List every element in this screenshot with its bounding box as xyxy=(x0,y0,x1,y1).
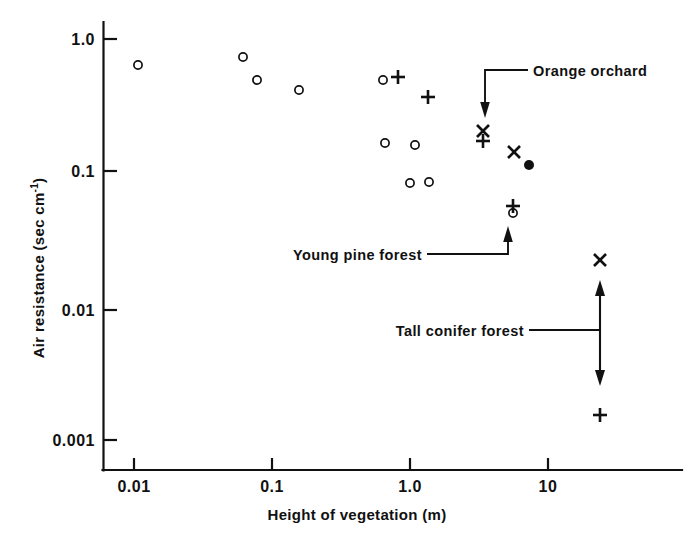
tall-conifer-forest-arrowhead-up xyxy=(595,280,605,296)
data-point-open-circle xyxy=(381,139,389,147)
data-point-open-circle xyxy=(406,179,414,187)
y-axis-title-main: Air resistance (sec cm xyxy=(30,192,47,358)
young-pine-forest-label: Young pine forest xyxy=(293,247,422,263)
y-axis-title-exponent: -1 xyxy=(29,183,40,193)
y-axis-title: Air resistance (sec cm-1) xyxy=(29,178,47,359)
young-pine-forest-arrowhead xyxy=(503,226,513,242)
data-point-open-circle xyxy=(134,61,142,69)
series-plus xyxy=(391,70,607,422)
y-tick-label-0p01: 0.01 xyxy=(62,302,95,319)
orange-orchard-label: Orange orchard xyxy=(533,63,647,79)
series-open-circle xyxy=(134,53,517,217)
figure-panel: 1.0 0.1 0.01 0.001 0.01 0.1 1.0 10 Heigh… xyxy=(0,0,689,541)
y-tick-label-0p001: 0.001 xyxy=(52,432,95,449)
data-point-open-circle xyxy=(411,141,419,149)
annotation-tall-conifer-forest: Tall conifer forest xyxy=(396,280,605,386)
data-point-filled-circle xyxy=(524,160,534,170)
y-tick-label-0p1: 0.1 xyxy=(71,163,95,180)
tall-conifer-forest-label: Tall conifer forest xyxy=(396,323,524,339)
data-point-open-circle xyxy=(239,53,247,61)
annotation-orange-orchard: Orange orchard xyxy=(480,63,647,118)
x-tick-label-1: 1.0 xyxy=(398,478,422,495)
tall-conifer-forest-arrowhead-down xyxy=(595,370,605,386)
data-point-open-circle xyxy=(379,76,387,84)
annotation-young-pine-forest: Young pine forest xyxy=(293,226,513,263)
orange-orchard-leader-line xyxy=(485,70,528,104)
data-point-plus xyxy=(506,199,520,213)
y-tick-label-1: 1.0 xyxy=(71,31,95,48)
x-tick-label-0p1: 0.1 xyxy=(260,478,284,495)
data-point-open-circle xyxy=(425,178,433,186)
data-point-cross xyxy=(594,254,606,266)
x-axis-ticks xyxy=(134,458,548,470)
data-point-open-circle xyxy=(295,86,303,94)
y-axis-tick-labels: 1.0 0.1 0.01 0.001 xyxy=(52,31,95,449)
svg-text:Air resistance (sec cm-1): Air resistance (sec cm-1) xyxy=(29,178,47,359)
x-axis-tick-labels: 0.01 0.1 1.0 10 xyxy=(117,478,557,495)
young-pine-forest-leader-line xyxy=(427,242,508,254)
data-point-cross xyxy=(508,146,520,158)
data-point-open-circle xyxy=(253,76,261,84)
series-filled-circle xyxy=(524,160,534,170)
data-point-plus xyxy=(593,408,607,422)
y-axis-ticks xyxy=(104,39,118,440)
x-tick-label-0p01: 0.01 xyxy=(117,478,150,495)
x-axis-title: Height of vegetation (m) xyxy=(268,506,447,523)
series-cross xyxy=(477,125,606,266)
data-point-plus xyxy=(391,70,405,84)
x-tick-label-10: 10 xyxy=(539,478,558,495)
orange-orchard-arrowhead xyxy=(480,102,490,118)
y-axis-title-close: ) xyxy=(30,178,47,183)
scatter-plot-svg: 1.0 0.1 0.01 0.001 0.01 0.1 1.0 10 Heigh… xyxy=(0,0,689,541)
data-point-plus xyxy=(421,90,435,104)
